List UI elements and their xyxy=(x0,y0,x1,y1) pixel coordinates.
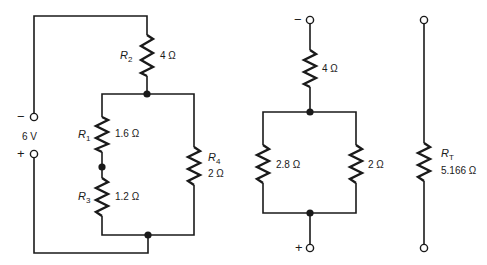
plus-sign: + xyxy=(295,240,303,255)
resistor-left xyxy=(257,145,269,183)
resistor-top xyxy=(304,50,316,87)
minus-sign: − xyxy=(17,109,25,124)
circuit-a: − 6 V + R2 4 Ω R1 1.6 Ω R3 1.2 Ω R4 2 Ω xyxy=(17,16,224,253)
resistor-rt xyxy=(418,143,430,181)
wire-parallel-top xyxy=(102,94,194,147)
junction-dot xyxy=(143,90,150,97)
junction-dot xyxy=(98,163,105,170)
wire-top xyxy=(34,16,147,113)
terminal-top xyxy=(420,16,427,23)
r3-value: 1.2 Ω xyxy=(115,191,140,202)
junction-dot xyxy=(306,108,313,115)
r2-label: R2 xyxy=(120,49,133,64)
top-resistor-value: 4 Ω xyxy=(322,63,338,74)
resistor-r3 xyxy=(96,178,108,216)
resistor-r4 xyxy=(188,147,200,185)
terminal-bottom xyxy=(420,244,427,251)
r4-value: 2 Ω xyxy=(208,168,224,179)
plus-sign: + xyxy=(17,146,25,161)
terminal-minus xyxy=(30,113,37,120)
right-resistor-value: 2 Ω xyxy=(368,159,384,170)
wire-parallel-top xyxy=(263,112,356,145)
r4-label: R4 xyxy=(208,151,221,166)
source-voltage: 6 V xyxy=(22,131,37,142)
terminal-plus xyxy=(30,150,37,157)
r1-label: R1 xyxy=(78,128,91,143)
terminal-minus xyxy=(306,16,313,23)
resistor-r1 xyxy=(96,117,108,152)
r3-label: R3 xyxy=(78,190,91,205)
resistor-r2 xyxy=(141,35,153,76)
circuit-c: RT 5.166 Ω xyxy=(418,16,477,251)
circuit-diagrams: − 6 V + R2 4 Ω R1 1.6 Ω R3 1.2 Ω R4 2 Ω … xyxy=(0,0,487,265)
minus-sign: − xyxy=(294,12,302,27)
wire-parallel-bottom xyxy=(263,183,356,213)
left-resistor-value: 2.8 Ω xyxy=(276,159,301,170)
r1-value: 1.6 Ω xyxy=(115,128,140,139)
wire-bottom xyxy=(34,158,148,253)
resistor-right xyxy=(350,145,362,183)
circuit-b: − + 4 Ω 2.8 Ω 2 Ω xyxy=(257,12,384,255)
rt-label: RT xyxy=(441,147,454,162)
r2-value: 4 Ω xyxy=(160,50,176,61)
terminal-plus xyxy=(306,244,313,251)
rt-value: 5.166 Ω xyxy=(441,165,477,176)
